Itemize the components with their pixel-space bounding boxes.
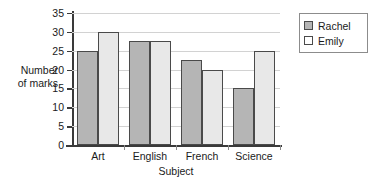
x-category-label: Art bbox=[72, 150, 124, 162]
y-tick-label: 15 bbox=[52, 82, 64, 94]
y-tick-label: 20 bbox=[52, 64, 64, 76]
bar-emily-art bbox=[98, 32, 119, 145]
bar-group bbox=[124, 13, 176, 145]
x-category-label: English bbox=[124, 150, 176, 162]
x-axis-line bbox=[66, 145, 282, 147]
legend-item-rachel[interactable]: Rachel bbox=[304, 18, 363, 33]
x-axis-title: Subject bbox=[72, 165, 280, 177]
plot-area: 05101520253035 bbox=[72, 13, 280, 145]
y-axis-title-line-2: of marks bbox=[2, 77, 58, 90]
bar-group bbox=[176, 13, 228, 145]
y-tick-label: 30 bbox=[52, 26, 64, 38]
bar-group bbox=[72, 13, 124, 145]
bar-emily-english bbox=[150, 41, 171, 145]
bar-groups bbox=[72, 13, 280, 145]
legend-label-emily: Emily bbox=[318, 35, 344, 47]
y-tick-label: 0 bbox=[58, 139, 64, 151]
y-axis-title-line-1: Number bbox=[2, 64, 58, 77]
x-category-label: Science bbox=[228, 150, 280, 162]
bar-emily-science bbox=[254, 51, 275, 145]
bar-rachel-french bbox=[181, 60, 202, 145]
x-category-label: French bbox=[176, 150, 228, 162]
bar-chart: Number of marks 05101520253035 ArtEnglis… bbox=[0, 0, 372, 186]
bar-rachel-english bbox=[129, 41, 150, 145]
y-tick-mark bbox=[67, 145, 72, 146]
y-axis-title: Number of marks bbox=[2, 64, 58, 89]
y-tick-label: 25 bbox=[52, 45, 64, 57]
chart-legend: Rachel Emily bbox=[299, 13, 368, 53]
bar-group bbox=[228, 13, 280, 145]
y-tick-label: 5 bbox=[58, 120, 64, 132]
x-tick-mark bbox=[280, 145, 281, 150]
legend-swatch-rachel-icon bbox=[304, 21, 313, 30]
legend-label-rachel: Rachel bbox=[318, 20, 351, 32]
y-tick-label: 35 bbox=[52, 7, 64, 19]
y-tick-label: 10 bbox=[52, 101, 64, 113]
bar-emily-french bbox=[202, 70, 223, 145]
legend-item-emily[interactable]: Emily bbox=[304, 33, 363, 48]
legend-swatch-emily-icon bbox=[304, 36, 313, 45]
bar-rachel-art bbox=[77, 51, 98, 145]
bar-rachel-science bbox=[233, 88, 254, 145]
